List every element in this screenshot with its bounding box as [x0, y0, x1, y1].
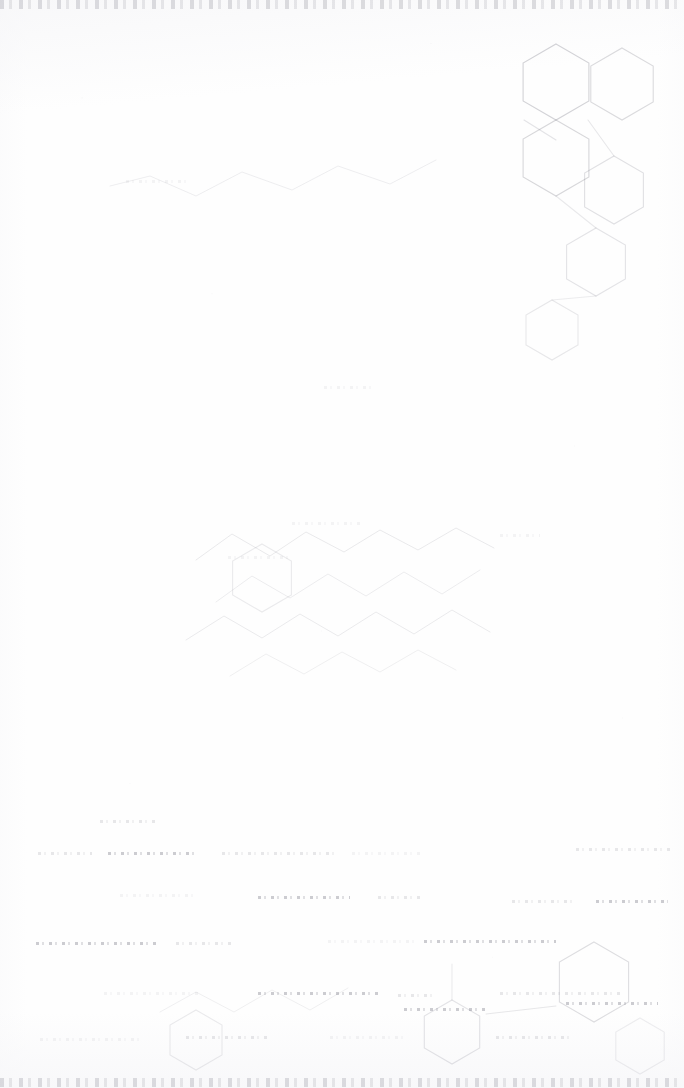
bond-upper-4 [552, 296, 596, 300]
ring-upper-right-d [585, 156, 644, 224]
chain-mid-b [216, 570, 480, 602]
scanned-page [0, 0, 684, 1088]
ring-lower-right [559, 942, 628, 1022]
ring-upper-right-c [523, 120, 589, 196]
ring-group [170, 44, 664, 1074]
bond-upper-2 [588, 120, 614, 156]
bond-group [452, 120, 614, 1014]
chain-mid-d [230, 650, 456, 676]
ring-upper-right-f [526, 300, 578, 360]
ring-upper-right-b [591, 48, 653, 120]
ring-mid-left [233, 544, 292, 612]
ring-upper-right-e [567, 228, 626, 296]
bond-upper-3 [556, 196, 596, 228]
ring-upper-right-a [523, 44, 589, 120]
bond-lower-1 [486, 1006, 556, 1014]
chain-group [110, 160, 494, 1012]
chain-lower [160, 988, 348, 1012]
chemical-structure-layer [0, 0, 684, 1088]
ring-lower-left [170, 1010, 222, 1070]
ring-lower-center [424, 1000, 479, 1064]
ring-footer-right [616, 1018, 664, 1074]
chain-mid-c [186, 610, 490, 640]
chain-mid-a [196, 528, 494, 560]
chain-upper-wide [110, 160, 436, 196]
